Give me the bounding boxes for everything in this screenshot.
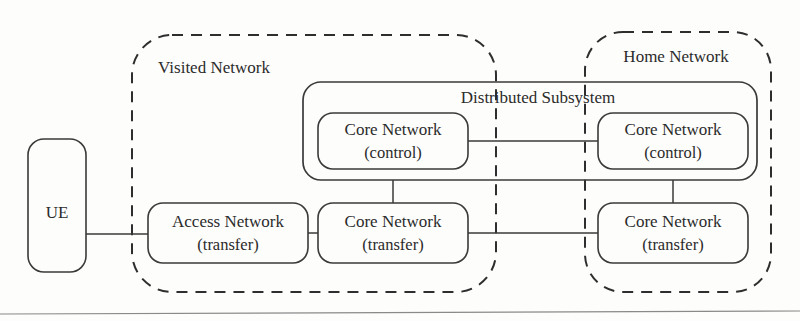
node-core-network-control-home-label-line-1: Core Network: [625, 120, 722, 139]
node-ue-label-line-1: UE: [46, 203, 69, 222]
node-core-network-control-visited-label-line-2: (control): [364, 143, 422, 162]
node-core-network-control-home[interactable]: Core Network (control): [598, 113, 748, 169]
node-core-network-transfer-visited-label-line-1: Core Network: [345, 212, 442, 231]
page-bottom-rule: [0, 311, 800, 314]
node-core-network-control-visited-label-line-1: Core Network: [345, 120, 442, 139]
node-access-network-transfer-label-line-2: (transfer): [197, 235, 258, 254]
node-core-network-transfer-home[interactable]: Core Network (transfer): [598, 203, 748, 263]
zone-label-home-network: Home Network: [623, 47, 729, 66]
node-access-network-transfer[interactable]: Access Network (transfer): [148, 203, 308, 263]
node-access-network-transfer-label-line-1: Access Network: [172, 212, 284, 231]
node-core-network-transfer-visited[interactable]: Core Network (transfer): [318, 203, 468, 263]
node-core-network-transfer-home-label-line-2: (transfer): [642, 235, 703, 254]
node-core-network-control-visited[interactable]: Core Network (control): [318, 113, 468, 169]
network-architecture-diagram: Visited Network Home Network Distributed…: [0, 0, 800, 321]
node-core-network-transfer-visited-label-line-2: (transfer): [362, 235, 423, 254]
diagram-page: Visited Network Home Network Distributed…: [0, 0, 800, 321]
node-core-network-transfer-home-label-line-1: Core Network: [625, 212, 722, 231]
zone-label-visited-network: Visited Network: [158, 58, 270, 77]
node-core-network-control-home-label-line-2: (control): [644, 143, 702, 162]
distributed-subsystem-label: Distributed Subsystem: [461, 88, 615, 107]
node-ue[interactable]: UE: [28, 139, 86, 272]
